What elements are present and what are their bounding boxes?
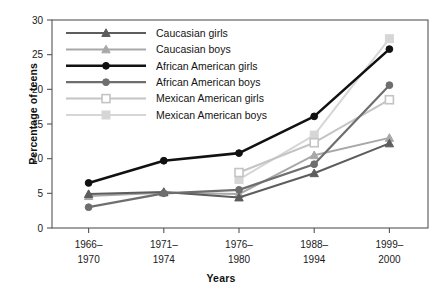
data-point-circle-marker (85, 180, 92, 187)
legend-label: Mexican American boys (156, 109, 267, 121)
legend-circle-marker (103, 79, 110, 86)
legend-label: Caucasian boys (156, 43, 231, 55)
data-point-open-square-marker (310, 139, 318, 147)
x-tick-label: 1988– (300, 239, 328, 250)
x-tick-label: 1999– (375, 239, 403, 250)
x-tick-label: 1971– (150, 239, 178, 250)
data-point-circle-marker (160, 190, 167, 197)
legend-label: Caucasian girls (156, 27, 228, 39)
data-point-filled-square-marker (385, 35, 393, 43)
data-point-open-square-marker (385, 96, 393, 104)
y-tick-label: 5 (37, 188, 43, 199)
y-axis-ticks: 051015202530 (32, 15, 52, 234)
legend-item-mexican-american-boys: Mexican American boys (66, 109, 267, 121)
y-tick-label: 10 (32, 153, 44, 164)
data-point-circle-marker (386, 82, 393, 89)
data-point-circle-marker (236, 150, 243, 157)
x-tick-label: 1994 (303, 254, 326, 265)
legend-open-square-marker (102, 95, 110, 103)
x-tick-label: 2000 (378, 254, 401, 265)
data-point-circle-marker (160, 157, 167, 164)
x-tick-label: 1976– (225, 239, 253, 250)
legend-filled-square-marker (102, 111, 110, 119)
y-tick-label: 30 (32, 15, 44, 26)
data-point-circle-marker (85, 204, 92, 211)
y-tick-label: 0 (37, 223, 43, 234)
legend-item-african-american-girls: African American girls (66, 60, 258, 72)
x-tick-label: 1980 (228, 254, 251, 265)
legend-item-african-american-boys: African American boys (66, 76, 260, 88)
legend-label: Mexican American girls (156, 92, 264, 104)
data-point-filled-square-marker (310, 131, 318, 139)
legend-label: African American girls (156, 60, 258, 72)
y-tick-label: 15 (32, 119, 44, 130)
y-tick-label: 20 (32, 84, 44, 95)
data-point-open-square-marker (235, 169, 243, 177)
legend-circle-marker (103, 62, 110, 69)
data-point-circle-marker (236, 186, 243, 193)
legend-item-caucasian-girls: Caucasian girls (66, 27, 228, 39)
x-tick-label: 1974 (153, 254, 176, 265)
data-point-circle-marker (311, 113, 318, 120)
line-chart-plot: 051015202530 1966–19701971–19741976–1980… (0, 0, 442, 291)
chart-figure: Percentage of teens Years 051015202530 1… (0, 0, 442, 291)
chart-legend: Caucasian girlsCaucasian boysAfrican Ame… (66, 27, 267, 121)
legend-label: African American boys (156, 76, 260, 88)
data-point-circle-marker (311, 161, 318, 168)
legend-item-caucasian-boys: Caucasian boys (66, 43, 231, 55)
legend-item-mexican-american-girls: Mexican American girls (66, 92, 264, 104)
x-tick-label: 1966– (75, 239, 103, 250)
x-tick-label: 1970 (77, 254, 100, 265)
x-axis-ticks: 1966–19701971–19741976–19801988–19941999… (75, 228, 404, 265)
y-tick-label: 25 (32, 49, 44, 60)
data-point-circle-marker (386, 46, 393, 53)
